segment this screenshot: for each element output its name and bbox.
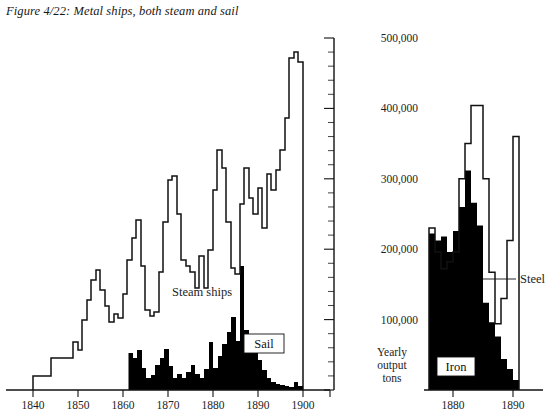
ytick-label-400000: 400,000: [381, 102, 419, 115]
sail-label: Sail: [254, 337, 274, 351]
ytick-label-500000: 500,000: [381, 32, 419, 45]
right-xtick-label-1: 1890: [502, 399, 525, 411]
y-axis-ruler: 500,000 400,000 300,000 200,000 100,000 …: [324, 32, 418, 390]
left-xtick-label-4: 1880: [202, 399, 225, 411]
steel-label: Steel: [520, 272, 546, 286]
right-x-ticks: [453, 390, 513, 397]
ytick-label-300000: 300,000: [381, 173, 419, 186]
y-major-ticks: [324, 38, 334, 390]
steam-ships-label: Steam ships: [172, 285, 232, 299]
left-xtick-label-0: 1840: [22, 399, 45, 411]
y-unit-line-1: output: [377, 359, 407, 372]
figure-root: Figure 4/22: Metal ships, both steam and…: [0, 0, 547, 413]
left-xtick-label-2: 1860: [112, 399, 135, 411]
y-unit-line-2: tons: [382, 372, 402, 384]
ytick-label-100000: 100,000: [381, 314, 419, 327]
y-minor-ticks: [328, 52, 334, 376]
iron-boxed-label: Iron: [437, 357, 475, 376]
left-xtick-label-5: 1890: [247, 399, 270, 411]
right-chart-group: 1880 1890 Steel Iron: [424, 106, 546, 411]
ytick-label-200000: 200,000: [381, 243, 419, 256]
sail-boxed-label: Sail: [244, 334, 284, 353]
y-unit-line-0: Yearly: [377, 346, 407, 359]
chart-canvas: 1840 1850 1860 1870 1880 1890 1900 Steam…: [0, 0, 547, 413]
left-chart-group: 1840 1850 1860 1870 1880 1890 1900 Steam…: [6, 52, 330, 411]
left-xtick-label-3: 1870: [157, 399, 180, 411]
left-xtick-label-1: 1850: [67, 399, 90, 411]
iron-label: Iron: [446, 360, 468, 374]
left-xtick-label-6: 1900: [292, 399, 315, 411]
right-xtick-label-0: 1880: [442, 399, 465, 411]
left-x-ticks: [33, 390, 330, 397]
